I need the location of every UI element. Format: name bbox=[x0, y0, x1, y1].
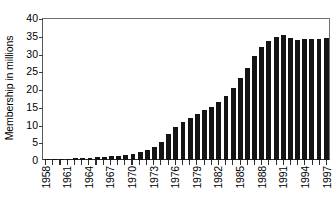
x-tick-mark bbox=[326, 160, 327, 165]
bar-slot bbox=[108, 18, 115, 160]
bar bbox=[274, 37, 279, 160]
x-tick-slot bbox=[323, 160, 330, 165]
bar-slot bbox=[222, 18, 229, 160]
bar-slot bbox=[194, 18, 201, 160]
bar-slot bbox=[129, 18, 136, 160]
bar-slot bbox=[287, 18, 294, 160]
x-tick-slot bbox=[78, 160, 85, 165]
bar-slot bbox=[301, 18, 308, 160]
x-tick-mark bbox=[131, 160, 132, 165]
x-label-slot: 1979 bbox=[193, 166, 200, 218]
x-tick-mark bbox=[175, 160, 176, 165]
bar-slot bbox=[244, 18, 251, 160]
x-label-slot bbox=[114, 166, 121, 218]
y-tick-label: 30 bbox=[14, 48, 38, 59]
bar bbox=[173, 127, 178, 160]
bar bbox=[152, 147, 157, 160]
x-tick-mark bbox=[81, 160, 82, 165]
bar-slot bbox=[151, 18, 158, 160]
x-tick-slot bbox=[56, 160, 63, 165]
bar-slot bbox=[280, 18, 287, 160]
bar-slot bbox=[187, 18, 194, 160]
x-tick-slot bbox=[143, 160, 150, 165]
x-tick-slot bbox=[172, 160, 179, 165]
bar bbox=[224, 96, 229, 160]
x-tick-mark bbox=[261, 160, 262, 165]
bar-slot bbox=[137, 18, 144, 160]
bar-slot bbox=[230, 18, 237, 160]
x-tick-slot bbox=[265, 160, 272, 165]
y-tick-label: 40 bbox=[14, 13, 38, 24]
x-label-slot bbox=[157, 166, 164, 218]
x-tick-slot bbox=[71, 160, 78, 165]
x-label-slot bbox=[309, 166, 316, 218]
bar bbox=[216, 102, 221, 160]
x-axis-tick-marks bbox=[42, 160, 330, 165]
x-tick-slot bbox=[309, 160, 316, 165]
x-tick-slot bbox=[208, 160, 215, 165]
bar bbox=[195, 114, 200, 160]
x-tick-slot bbox=[316, 160, 323, 165]
x-label-slot: 1997 bbox=[323, 166, 330, 218]
x-tick-mark bbox=[95, 160, 96, 165]
bar bbox=[324, 38, 329, 160]
bar bbox=[238, 78, 243, 160]
bar-slot bbox=[201, 18, 208, 160]
x-tick-mark bbox=[52, 160, 53, 165]
x-tick-slot bbox=[114, 160, 121, 165]
x-label-slot: 1982 bbox=[215, 166, 222, 218]
x-tick-slot bbox=[280, 160, 287, 165]
bar bbox=[181, 122, 186, 160]
x-tick-slot bbox=[273, 160, 280, 165]
x-label-slot: 1994 bbox=[301, 166, 308, 218]
y-tick-label: 5 bbox=[14, 137, 38, 148]
x-tick-slot bbox=[229, 160, 236, 165]
x-tick-mark bbox=[189, 160, 190, 165]
bar-slot bbox=[179, 18, 186, 160]
x-label-slot bbox=[287, 166, 294, 218]
bar-slot bbox=[273, 18, 280, 160]
bar bbox=[231, 88, 236, 160]
y-tick-label: 10 bbox=[14, 119, 38, 130]
bar bbox=[245, 68, 250, 160]
x-tick-mark bbox=[211, 160, 212, 165]
bar-slot bbox=[165, 18, 172, 160]
bar-slot bbox=[72, 18, 79, 160]
bar bbox=[138, 152, 143, 160]
x-tick-mark bbox=[153, 160, 154, 165]
x-label-slot bbox=[136, 166, 143, 218]
x-tick-slot bbox=[157, 160, 164, 165]
x-tick-mark bbox=[297, 160, 298, 165]
bars-container bbox=[42, 18, 330, 160]
bar-slot bbox=[258, 18, 265, 160]
x-tick-slot bbox=[251, 160, 258, 165]
x-tick-mark bbox=[139, 160, 140, 165]
x-label-slot: 1973 bbox=[150, 166, 157, 218]
bar-slot bbox=[44, 18, 51, 160]
y-tick-label: 20 bbox=[14, 84, 38, 95]
x-tick-mark bbox=[268, 160, 269, 165]
bar bbox=[166, 134, 171, 160]
x-tick-mark bbox=[304, 160, 305, 165]
x-tick-slot bbox=[186, 160, 193, 165]
x-label-slot: 1991 bbox=[280, 166, 287, 218]
bar bbox=[259, 47, 264, 160]
x-tick-slot bbox=[136, 160, 143, 165]
bar bbox=[209, 107, 214, 160]
x-label-slot: 1964 bbox=[85, 166, 92, 218]
y-tick-label: 25 bbox=[14, 66, 38, 77]
x-label-slot bbox=[265, 166, 272, 218]
x-tick-mark bbox=[290, 160, 291, 165]
x-tick-mark bbox=[74, 160, 75, 165]
x-tick-slot bbox=[49, 160, 56, 165]
x-label-slot: 1967 bbox=[107, 166, 114, 218]
x-label-slot: 1958 bbox=[42, 166, 49, 218]
x-label-slot: 1976 bbox=[172, 166, 179, 218]
bar bbox=[317, 39, 322, 160]
x-tick-slot bbox=[236, 160, 243, 165]
y-axis-tick-labels: 0510152025303540 bbox=[14, 12, 38, 164]
bar-slot bbox=[115, 18, 122, 160]
bar bbox=[145, 150, 150, 160]
x-label-slot bbox=[92, 166, 99, 218]
bar-slot bbox=[315, 18, 322, 160]
